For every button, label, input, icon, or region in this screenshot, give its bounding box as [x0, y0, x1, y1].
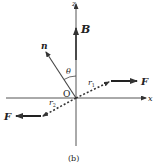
B-label: B [80, 23, 90, 36]
theta-label: θ [66, 67, 71, 76]
n-label: n [41, 41, 48, 51]
n-vector [46, 52, 76, 98]
F2-label: F [3, 111, 12, 122]
x-axis-label: x [148, 94, 153, 103]
r2-vector [43, 98, 76, 116]
F1-label: F [140, 76, 149, 87]
z-axis-label: z [71, 0, 76, 8]
magnetic-torque-diagram: z B x n θ O r1 F r2 F (b) [0, 0, 156, 165]
r2-label: r2 [49, 98, 56, 108]
figure-caption: (b) [68, 154, 79, 163]
r1-label: r1 [88, 78, 95, 88]
origin-label: O [63, 89, 70, 99]
theta-arc [64, 76, 76, 80]
r1-subscript: 1 [92, 82, 95, 88]
r2-subscript: 2 [53, 102, 56, 108]
